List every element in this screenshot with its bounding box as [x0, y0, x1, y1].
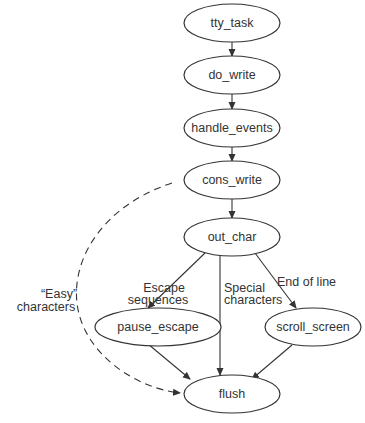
node-label: out_char — [208, 230, 257, 244]
node-pause-escape: pause_escape — [95, 308, 221, 346]
node-scroll-screen: scroll_screen — [265, 308, 361, 346]
label-easy-line1: “Easy” — [41, 287, 77, 301]
node-label: flush — [219, 387, 245, 401]
node-tty-task: tty_task — [184, 4, 280, 42]
node-label: do_write — [208, 68, 255, 82]
node-label: pause_escape — [117, 320, 198, 334]
node-label: handle_events — [191, 121, 272, 135]
label-easy-line2: characters — [17, 300, 75, 314]
node-label: tty_task — [210, 16, 254, 30]
node-do-write: do_write — [184, 56, 280, 94]
label-special-line2: characters — [224, 293, 282, 307]
node-flush: flush — [184, 375, 280, 413]
node-cons-write: cons_write — [184, 161, 280, 199]
node-out-char: out_char — [184, 218, 280, 256]
node-label: scroll_screen — [276, 320, 350, 334]
label-escape-line2: sequences — [128, 293, 188, 307]
node-label: cons_write — [202, 173, 262, 187]
edge-pause-escape-to-flush — [148, 344, 190, 379]
label-end-of-line: End of line — [277, 275, 336, 289]
edge-scroll-screen-to-flush — [252, 345, 292, 379]
call-graph-diagram: Escape sequences Special characters End … — [0, 0, 365, 423]
node-handle-events: handle_events — [184, 109, 280, 147]
